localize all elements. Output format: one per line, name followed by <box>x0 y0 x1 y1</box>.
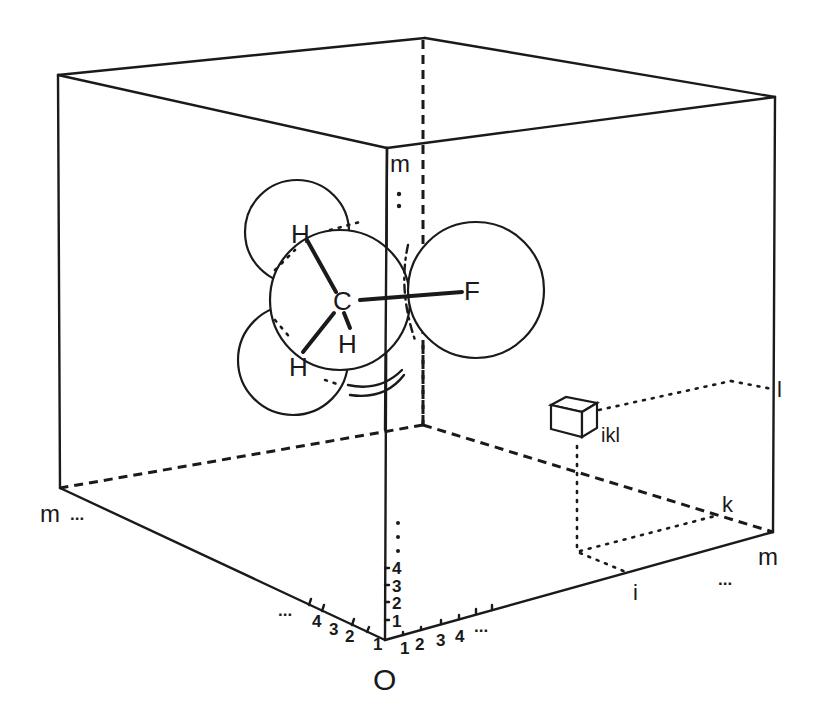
vertical-ellipsis-dot <box>396 535 400 539</box>
left-end-ellipsis: ... <box>70 505 84 524</box>
top-back-left-edge <box>58 38 425 75</box>
vertical-end-dot <box>397 204 401 208</box>
atom-label-h: H <box>338 329 357 359</box>
hidden-back-right-edge <box>423 425 773 532</box>
bottom-right-edge <box>385 532 773 640</box>
right-end-ellipsis: ... <box>718 570 732 589</box>
right-tick-3: 3 <box>436 631 445 650</box>
right-vertical-edge <box>773 97 775 532</box>
l-projection-line <box>599 381 731 410</box>
vertical-tick-1: 1 <box>392 612 401 631</box>
vertical-tick-4: 4 <box>392 559 402 578</box>
atom-label-f: F <box>464 276 480 306</box>
left-tick-2: 2 <box>345 627 354 646</box>
right-tick-1: 1 <box>400 639 409 658</box>
left-tick-3: 3 <box>329 620 338 639</box>
atom-label-c: C <box>333 286 352 316</box>
left-ellipsis: ... <box>278 601 292 620</box>
vertical-end-dot <box>397 192 401 196</box>
vertical-ellipsis-dot <box>396 549 400 553</box>
lattice-cube-diagram: 1 2 3 4 ... m ... 1 2 3 4 ... ... m 1 2 … <box>0 0 829 724</box>
right-tick-4: 4 <box>455 627 465 646</box>
voxel-group: ikl l k i <box>551 377 782 605</box>
origin-label: O <box>373 663 396 696</box>
coord-label-k: k <box>722 492 734 517</box>
top-front-left-edge <box>58 75 387 148</box>
top-back-right-edge <box>425 38 775 97</box>
top-front-right-edge <box>387 97 775 148</box>
left-tick-4: 4 <box>312 612 322 631</box>
vertical-tick-3: 3 <box>392 577 401 596</box>
cube-edges <box>58 38 775 640</box>
right-tick-2: 2 <box>415 635 424 654</box>
vertical-axis-labels: 1 2 3 4 m <box>390 150 410 631</box>
left-axis-labels: 1 2 3 4 ... m ... <box>40 500 382 654</box>
k-projection-line <box>580 516 715 551</box>
vertical-ellipsis-dot <box>396 521 400 525</box>
atom-label-h: H <box>289 352 308 382</box>
coord-label-i: i <box>633 580 638 605</box>
left-vertical-edge <box>58 75 60 488</box>
vertical-axis-end-label: m <box>390 150 410 177</box>
coord-label-l: l <box>777 377 782 402</box>
voxel-label: ikl <box>601 424 620 446</box>
bottom-left-edge <box>60 488 385 640</box>
i-projection-line <box>580 553 626 572</box>
l-projection-line <box>731 381 772 389</box>
right-ellipsis: ... <box>474 617 488 636</box>
ch3f-molecule: C F H H H <box>238 148 544 430</box>
right-axis-labels: 1 2 3 4 ... ... m <box>400 543 778 658</box>
right-axis-end-label: m <box>758 543 778 570</box>
hidden-back-left-edge <box>60 425 423 488</box>
vertical-tick-2: 2 <box>392 594 401 613</box>
atom-label-h: H <box>291 219 310 249</box>
left-tick-1: 1 <box>373 635 382 654</box>
left-axis-end-label: m <box>40 500 60 527</box>
